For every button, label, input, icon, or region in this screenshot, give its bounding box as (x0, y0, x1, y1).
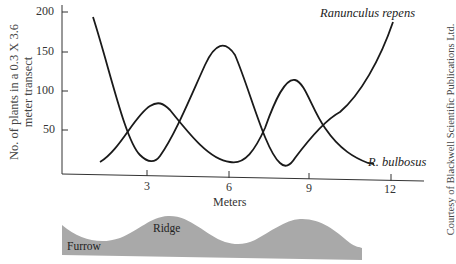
furrow-label: Furrow (67, 240, 101, 252)
y-axis-label-line2: meter transect (21, 7, 35, 177)
series-label-ranunculus-repens: Ranunculus repens (320, 6, 415, 21)
ridge-label: Ridge (153, 222, 180, 234)
series-label-r-bulbosus: R. bulbosus (368, 155, 426, 170)
x-tick-label: 3 (144, 179, 150, 194)
x-tick-label: 6 (226, 180, 232, 195)
image-credit: Courtesy of Blackwell Scientific Publica… (445, 10, 456, 250)
furrow-ridge-profile (62, 216, 362, 260)
y-axis-label: No. of plants in a 0.3 X 3.6 meter trans… (7, 7, 35, 177)
x-tick-label: 9 (306, 181, 312, 196)
y-tick-label: 150 (36, 44, 54, 59)
y-tick-label: 50 (43, 122, 55, 137)
series-ranunculus-repens (93, 17, 393, 166)
y-ticks (62, 12, 68, 130)
x-tick-label: 12 (384, 182, 396, 197)
x-axis (62, 174, 424, 181)
series-r-bulbosus (100, 80, 374, 164)
y-axis-label-line1: No. of plants in a 0.3 X 3.6 (7, 7, 21, 177)
y-tick-label: 100 (36, 83, 54, 98)
y-tick-label: 200 (36, 4, 54, 19)
x-axis-label: Meters (213, 195, 246, 210)
